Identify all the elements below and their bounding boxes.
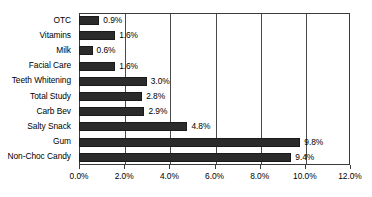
bar-value-label: 1.6% — [119, 30, 138, 40]
bar — [79, 122, 187, 131]
category-label: Teeth Whitening — [0, 76, 71, 85]
x-tick-mark — [169, 165, 170, 169]
category-label: Gum — [0, 137, 71, 146]
x-tick-mark — [305, 165, 306, 169]
x-tick-label: 2.0% — [115, 171, 134, 181]
bar-value-label: 1.6% — [119, 61, 138, 71]
bar — [79, 153, 291, 162]
bar — [79, 31, 115, 40]
x-tick-mark — [79, 165, 80, 169]
category-label: Vitamins — [0, 31, 71, 40]
bar-row: 0.9% — [79, 13, 350, 28]
bar-value-label: 4.8% — [191, 121, 210, 131]
bar — [79, 46, 93, 55]
bar-value-label: 2.9% — [148, 106, 167, 116]
x-tick-label: 8.0% — [250, 171, 269, 181]
x-tick-mark — [260, 165, 261, 169]
bar-row: 0.6% — [79, 43, 350, 58]
bar-value-label: 0.9% — [103, 15, 122, 25]
category-label: Salty Snack — [0, 122, 71, 131]
bar-row: 2.9% — [79, 104, 350, 119]
x-tick-label: 4.0% — [160, 171, 179, 181]
bar-value-label: 9.8% — [304, 137, 323, 147]
bar-row: 4.8% — [79, 119, 350, 134]
bar — [79, 77, 147, 86]
bar-row: 1.6% — [79, 59, 350, 74]
bar-row: 3.0% — [79, 74, 350, 89]
category-axis-labels: OTCVitaminsMilkFacial CareTeeth Whitenin… — [0, 13, 75, 165]
bar-row: 2.8% — [79, 89, 350, 104]
bar-value-label: 0.6% — [97, 45, 116, 55]
category-label: Total Study — [0, 92, 71, 101]
bar-row: 9.8% — [79, 135, 350, 150]
bar — [79, 138, 300, 147]
category-label: Facial Care — [0, 61, 71, 70]
bar — [79, 92, 142, 101]
bar — [79, 107, 144, 116]
bar-row: 1.6% — [79, 28, 350, 43]
bar-value-label: 9.4% — [295, 152, 314, 162]
x-tick-mark — [350, 165, 351, 169]
x-axis: 0.0%2.0%4.0%6.0%8.0%10.0%12.0% — [79, 165, 350, 191]
category-label: Milk — [0, 46, 71, 55]
bar-value-label: 2.8% — [146, 91, 165, 101]
x-tick-label: 0.0% — [70, 171, 89, 181]
bar-value-label: 3.0% — [151, 76, 170, 86]
x-tick-mark — [124, 165, 125, 169]
x-tick-label: 10.0% — [293, 171, 317, 181]
x-tick-label: 6.0% — [205, 171, 224, 181]
bars-layer: 0.9%1.6%0.6%1.6%3.0%2.8%2.9%4.8%9.8%9.4% — [79, 13, 350, 165]
category-label: OTC — [0, 16, 71, 25]
x-tick-label: 12.0% — [338, 171, 362, 181]
bar — [79, 62, 115, 71]
bar-chart: OTCVitaminsMilkFacial CareTeeth Whitenin… — [0, 0, 372, 197]
bar-row: 9.4% — [79, 150, 350, 165]
category-label: Carb Bev — [0, 107, 71, 116]
bar — [79, 16, 99, 25]
x-tick-mark — [215, 165, 216, 169]
category-label: Non-Choc Candy — [0, 152, 71, 161]
